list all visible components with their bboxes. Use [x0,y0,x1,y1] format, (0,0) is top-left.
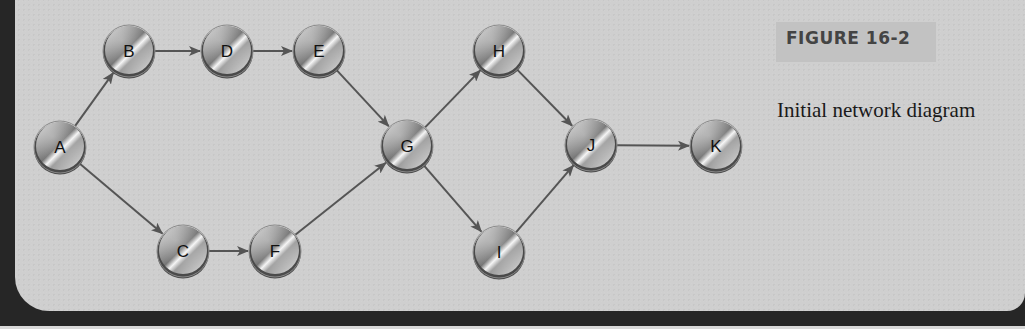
edge-f-g [295,163,386,235]
edge-a-b [75,73,113,126]
node-j: J [565,119,617,173]
figure-caption: Initial network diagram [777,99,977,122]
node-label: H [493,42,505,61]
node-label: C [177,242,189,261]
edge-g-i [424,166,481,232]
node-d: D [201,25,253,79]
edge-h-j [517,70,572,126]
node-label: K [710,137,722,156]
node-i: I [473,226,525,280]
edge-a-c [80,164,163,234]
node-a: A [34,121,86,175]
node-k: K [690,120,742,174]
node-label: A [54,138,66,157]
node-f: F [249,225,301,279]
node-label: G [400,137,413,156]
edge-e-g [337,70,389,126]
edge-i-j [516,165,573,232]
node-label: D [221,42,233,61]
node-e: E [293,25,345,79]
node-h: H [473,25,525,79]
node-label: E [313,42,324,61]
node-label: B [123,42,134,61]
figure-number: FIGURE 16-2 [786,28,910,48]
node-b: B [103,25,155,79]
edge-j-k [617,145,689,146]
node-label: I [497,243,502,262]
node-g: G [381,120,433,174]
node-label: F [270,242,280,261]
edge-g-h [425,70,480,127]
nodes-layer: ABDECFGHIJK [34,25,742,280]
node-label: J [587,136,596,155]
node-c: C [157,225,209,279]
